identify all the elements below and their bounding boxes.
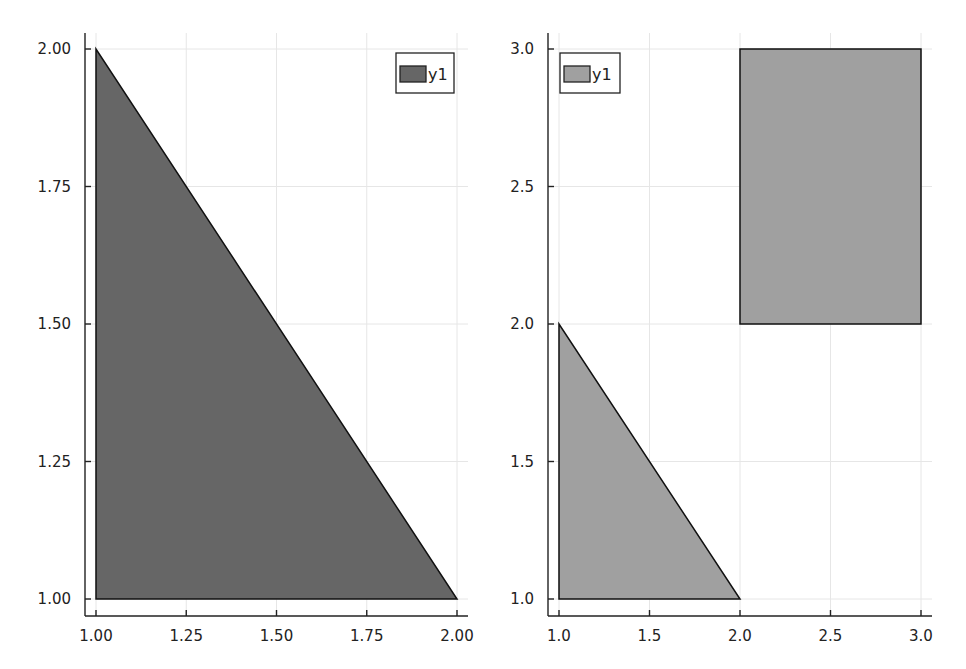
y-tick-label: 1.25 bbox=[38, 453, 71, 471]
figure: 1.001.251.501.752.001.001.251.501.752.00… bbox=[0, 0, 966, 669]
x-tick-label: 2.5 bbox=[819, 627, 843, 645]
y-tick-label: 1.5 bbox=[510, 453, 534, 471]
legend-label: y1 bbox=[428, 65, 448, 84]
subplot-left: 1.001.251.501.752.001.001.251.501.752.00… bbox=[38, 33, 474, 645]
y-tick-label: 1.00 bbox=[38, 590, 71, 608]
x-tick-label: 1.75 bbox=[350, 627, 383, 645]
x-tick-label: 2.00 bbox=[440, 627, 473, 645]
legend-swatch-icon bbox=[400, 66, 426, 82]
x-tick-label: 1.50 bbox=[260, 627, 293, 645]
x-tick-label: 1.25 bbox=[170, 627, 203, 645]
y-tick-label: 1.50 bbox=[38, 315, 71, 333]
y-tick-label: 2.5 bbox=[510, 178, 534, 196]
series-shape-y1 bbox=[740, 49, 921, 324]
legend: y1 bbox=[396, 53, 454, 93]
y-tick-label: 2.0 bbox=[510, 315, 534, 333]
x-tick-label: 2.0 bbox=[728, 627, 752, 645]
x-tick-label: 1.00 bbox=[79, 627, 112, 645]
y-tick-label: 1.75 bbox=[38, 178, 71, 196]
x-tick-label: 3.0 bbox=[909, 627, 933, 645]
y-tick-label: 3.0 bbox=[510, 40, 534, 58]
legend-label: y1 bbox=[592, 65, 612, 84]
subplot-right: 1.01.52.02.53.01.01.52.02.53.0y1 bbox=[510, 33, 933, 645]
x-tick-label: 1.0 bbox=[547, 627, 571, 645]
y-tick-label: 2.00 bbox=[38, 40, 71, 58]
y-tick-label: 1.0 bbox=[510, 590, 534, 608]
x-tick-label: 1.5 bbox=[638, 627, 662, 645]
legend: y1 bbox=[560, 53, 620, 93]
legend-swatch-icon bbox=[564, 66, 590, 82]
